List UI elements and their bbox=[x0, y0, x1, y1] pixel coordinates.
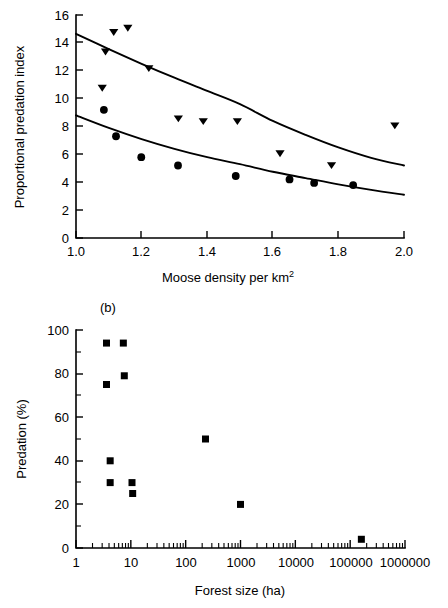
data-point-circle bbox=[174, 162, 182, 170]
y-tick-label: 12 bbox=[55, 63, 69, 78]
panel-a-axis-lines bbox=[76, 15, 404, 238]
data-point-triangle bbox=[123, 25, 132, 32]
panel-a-y-axis-title: Proportional predation index bbox=[12, 45, 27, 208]
x-tick-label: 1 bbox=[72, 555, 79, 570]
data-point-circle bbox=[112, 132, 120, 140]
data-point-square bbox=[107, 479, 114, 486]
data-point-triangle bbox=[98, 85, 107, 92]
panel-b-label: (b) bbox=[100, 300, 116, 315]
data-point-square bbox=[202, 436, 209, 443]
x-tick-label: 10 bbox=[124, 555, 138, 570]
upper-fit-curve bbox=[76, 34, 404, 166]
x-tick-label: 1.6 bbox=[263, 244, 281, 259]
panel-b-x-axis-title: Forest size (ha) bbox=[195, 583, 285, 598]
panel-b-svg: (b) Predation (%) 0 20 40 60 80 100 bbox=[0, 290, 448, 608]
y-tick-label: 8 bbox=[62, 119, 69, 134]
panel-a-moose-density-chart: Proportional predation index 0 2 4 6 8 1… bbox=[0, 0, 448, 296]
panel-a-data-markers bbox=[98, 25, 400, 189]
data-point-circle bbox=[137, 153, 145, 161]
data-point-triangle bbox=[233, 118, 242, 125]
panel-a-svg: Proportional predation index 0 2 4 6 8 1… bbox=[0, 0, 448, 296]
y-tick-label: 14 bbox=[55, 35, 69, 50]
panel-b-x-ticks bbox=[76, 540, 405, 548]
data-point-square bbox=[237, 501, 244, 508]
panel-a-x-axis-title-exponent: 2 bbox=[289, 269, 294, 279]
x-tick-label: 1000000 bbox=[380, 555, 431, 570]
y-tick-label: 100 bbox=[47, 323, 69, 338]
panel-b-data-markers bbox=[103, 340, 365, 543]
y-tick-label: 40 bbox=[55, 453, 69, 468]
data-point-square bbox=[129, 479, 136, 486]
x-tick-label: 100 bbox=[175, 555, 197, 570]
x-tick-label: 100000 bbox=[329, 555, 372, 570]
y-tick-label: 60 bbox=[55, 410, 69, 425]
panel-a-x-axis-title: Moose density per km2 bbox=[162, 269, 294, 285]
data-point-circle bbox=[286, 176, 294, 184]
data-point-square bbox=[121, 372, 128, 379]
data-point-square bbox=[358, 536, 365, 543]
x-tick-label: 1000 bbox=[227, 555, 256, 570]
y-tick-label: 16 bbox=[55, 8, 69, 23]
data-point-square bbox=[107, 457, 114, 464]
panel-a-fitted-curves bbox=[76, 34, 404, 195]
data-point-square bbox=[103, 340, 110, 347]
y-tick-label: 80 bbox=[55, 366, 69, 381]
data-point-triangle bbox=[275, 150, 284, 157]
panel-b-y-ticks bbox=[76, 330, 83, 548]
data-point-circle bbox=[100, 106, 108, 114]
x-tick-label: 10000 bbox=[278, 555, 314, 570]
data-point-triangle bbox=[174, 115, 183, 122]
data-point-square bbox=[103, 381, 110, 388]
panel-b-axis-lines bbox=[76, 330, 405, 548]
panel-b-y-tick-labels: 0 20 40 60 80 100 bbox=[47, 323, 69, 556]
panel-b-y-axis-title: Predation (%) bbox=[14, 399, 29, 478]
data-point-triangle bbox=[101, 49, 110, 56]
x-tick-label: 2.0 bbox=[395, 244, 413, 259]
data-point-triangle bbox=[327, 162, 336, 169]
x-tick-label: 1.8 bbox=[329, 244, 347, 259]
data-point-circle bbox=[232, 172, 240, 180]
y-tick-label: 0 bbox=[62, 541, 69, 556]
x-tick-label: 1.2 bbox=[132, 244, 150, 259]
panel-a-y-ticks bbox=[76, 15, 83, 238]
panel-b-forest-size-chart: (b) Predation (%) 0 20 40 60 80 100 bbox=[0, 290, 448, 608]
data-point-triangle bbox=[390, 122, 399, 129]
data-point-square bbox=[129, 490, 136, 497]
panel-a-x-axis-title-main: Moose density per km bbox=[162, 270, 289, 285]
y-tick-label: 10 bbox=[55, 91, 69, 106]
data-point-circle bbox=[310, 179, 318, 187]
data-point-square bbox=[120, 340, 127, 347]
panel-b-x-tick-labels: 1 10 100 1000 10000 100000 1000000 bbox=[72, 555, 430, 570]
data-point-circle bbox=[349, 181, 357, 189]
panel-a-y-tick-labels: 0 2 4 6 8 10 12 14 16 bbox=[55, 8, 69, 246]
panel-a-x-tick-labels: 1.0 1.2 1.4 1.6 1.8 2.0 bbox=[67, 244, 413, 259]
data-point-triangle bbox=[109, 29, 118, 36]
panel-a-x-ticks bbox=[76, 231, 404, 238]
x-tick-label: 1.4 bbox=[198, 244, 216, 259]
figure-container: Proportional predation index 0 2 4 6 8 1… bbox=[0, 0, 448, 608]
y-tick-label: 4 bbox=[62, 175, 69, 190]
y-tick-label: 6 bbox=[62, 147, 69, 162]
x-tick-label: 1.0 bbox=[67, 244, 85, 259]
y-tick-label: 20 bbox=[55, 497, 69, 512]
y-tick-label: 2 bbox=[62, 203, 69, 218]
data-point-triangle bbox=[199, 118, 208, 125]
